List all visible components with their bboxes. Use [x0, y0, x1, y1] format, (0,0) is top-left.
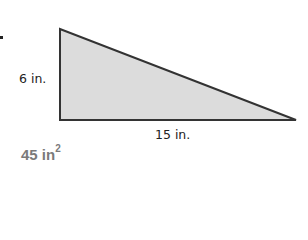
base-label: 15 in. — [155, 127, 190, 142]
answer-value: 45 in — [21, 146, 55, 163]
answer-exponent: 2 — [55, 143, 61, 154]
area-answer: 45 in2 — [21, 145, 61, 163]
height-label: 6 in. — [19, 71, 46, 86]
